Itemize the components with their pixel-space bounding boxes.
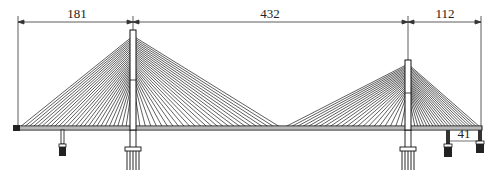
dimension-label-right-span: 112 (435, 6, 454, 21)
bridge-elevation-diagram: 181 432 112 (0, 0, 496, 183)
dimension-label-aux-span: 41 (458, 126, 471, 141)
tower-1 (130, 30, 136, 130)
end-pier-right (476, 130, 484, 153)
aux-pier-right (444, 130, 452, 157)
deck-end-block-left (13, 125, 20, 131)
main-pier-1 (125, 130, 141, 170)
bridge-deck (13, 125, 482, 131)
aux-pier-left (59, 130, 66, 156)
tower-2 (405, 60, 411, 130)
dimension-label-left-span: 181 (67, 6, 87, 21)
main-pier-2 (400, 130, 416, 170)
dimension-label-main-span: 432 (260, 6, 280, 21)
